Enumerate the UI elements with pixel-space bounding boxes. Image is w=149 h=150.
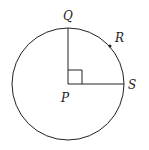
circle-diagram: Q R S P [0,0,149,150]
label-Q: Q [63,9,73,23]
label-S: S [128,78,136,92]
right-angle-marker [68,70,82,84]
point-R [109,45,112,48]
label-P: P [60,91,70,105]
label-R: R [114,31,124,45]
